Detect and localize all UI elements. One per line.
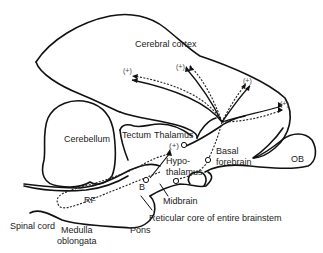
label-medulla-2: oblongata — [57, 237, 97, 246]
label-hypothalamus-1: Hypo- — [166, 157, 190, 166]
label-basal-forebrain-2: forebrain — [216, 158, 252, 167]
label-thalamus: Thalamus — [154, 131, 194, 140]
label-rf: RF — [84, 196, 96, 205]
plus-marker-2: (+) — [176, 63, 185, 70]
label-basal-forebrain-1: Basal — [216, 147, 239, 156]
label-cerebellum: Cerebellum — [64, 135, 110, 144]
label-ob: OB — [291, 155, 304, 164]
plus-marker-3: (+) — [243, 77, 252, 84]
label-cerebral-cortex: Cerebral cortex — [135, 40, 197, 49]
label-reticular-core: Reticular core of entire brainstem — [149, 214, 282, 223]
label-pons: Pons — [130, 226, 151, 235]
plus-marker-4: (+) — [280, 100, 289, 107]
label-midbrain: Midbrain — [163, 197, 198, 206]
label-tectum: Tectum — [122, 131, 151, 140]
label-hypothalamus-2: thalamus — [166, 168, 203, 177]
label-thalamus-plus: (+) — [169, 142, 179, 149]
label-b: B — [139, 183, 145, 192]
label-spinal-cord: Spinal cord — [10, 222, 55, 231]
plus-marker-1: (+) — [123, 67, 132, 74]
label-medulla-1: Medulla — [61, 226, 93, 235]
